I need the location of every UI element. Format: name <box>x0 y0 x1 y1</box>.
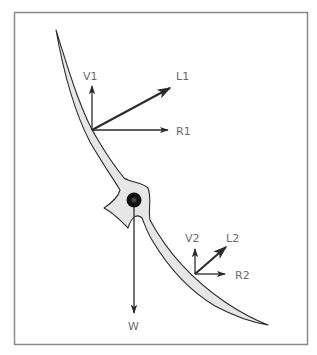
w-label: W <box>128 320 139 333</box>
lower-force-group <box>195 247 226 274</box>
l2-arrow <box>195 247 226 274</box>
r2-label: R2 <box>235 269 250 282</box>
upper-force-group <box>92 86 170 130</box>
v2-label: V2 <box>185 232 200 245</box>
l1-arrow <box>92 88 170 130</box>
force-diagram: V1 L1 R1 V2 L2 R2 W <box>0 0 317 355</box>
l2-label: L2 <box>226 232 239 245</box>
r1-label: R1 <box>176 125 191 138</box>
frame-border <box>15 13 308 345</box>
v1-label: V1 <box>83 70 98 83</box>
l1-label: L1 <box>176 70 189 83</box>
hub-center <box>132 198 137 203</box>
